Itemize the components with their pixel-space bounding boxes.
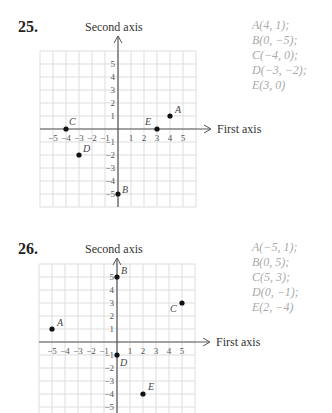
point-label: E (147, 381, 154, 392)
point-c (63, 126, 68, 131)
y-tick-label: 4 (110, 285, 115, 295)
point-b (114, 274, 119, 279)
y-tick-label: −3 (104, 376, 114, 386)
point-label: C (69, 116, 76, 127)
y-tick-label: 5 (111, 59, 116, 69)
point-label: A (56, 317, 64, 328)
point-b (115, 191, 120, 196)
x-tick-label: 1 (128, 346, 133, 356)
x-tick-label: 2 (142, 133, 147, 143)
x-tick-label: 5 (181, 133, 186, 143)
x-tick-label: −4 (61, 133, 71, 143)
y-tick-label: −2 (104, 363, 114, 373)
x-axis-title: First axis (217, 122, 261, 137)
answer-item: D(0, −1); (252, 285, 299, 300)
y-tick-label: −3 (105, 163, 115, 173)
point-label: A (174, 104, 182, 115)
answer-item: C(5, 3); (252, 270, 299, 285)
x-tick-label: −5 (48, 133, 58, 143)
answer-item: D(−3, −2); (252, 63, 307, 78)
y-tick-label: −5 (105, 189, 115, 199)
y-tick-label: 2 (111, 98, 116, 108)
answer-item: A(4, 1); (252, 18, 307, 33)
y-tick-label: 4 (111, 72, 116, 82)
x-tick-label: −2 (87, 133, 97, 143)
x-tick-label: 4 (167, 346, 172, 356)
answer-item: E(3, 0) (252, 78, 307, 93)
point-label: D (119, 357, 128, 368)
y-tick-label: −2 (105, 150, 115, 160)
point-label: D (82, 143, 91, 154)
x-tick-label: 1 (129, 133, 134, 143)
y-tick-label: 3 (110, 298, 115, 308)
problem-25: 25. Second axis −5−4−3−2−112345−5−4−3−2−… (0, 0, 332, 215)
point-label: E (144, 116, 151, 127)
x-axis-title: First axis (216, 335, 260, 350)
point-label: B (121, 265, 127, 276)
answer-item: B(0, −5); (252, 33, 307, 48)
x-tick-label: 4 (168, 133, 173, 143)
x-tick-label: −5 (47, 346, 57, 356)
y-tick-label: −1 (105, 137, 115, 147)
x-tick-label: 3 (154, 346, 159, 356)
y-tick-label: 3 (111, 85, 116, 95)
y-tick-label: −1 (104, 350, 114, 360)
answer-item: A(−5, 1); (252, 240, 299, 255)
answer-item: B(0, 5); (252, 255, 299, 270)
y-tick-label: 1 (111, 111, 116, 121)
y-tick-label: 2 (110, 311, 115, 321)
point-e (140, 391, 145, 396)
y-tick-label: −5 (104, 402, 114, 412)
point-d (76, 152, 81, 157)
x-tick-label: 2 (141, 346, 146, 356)
y-tick-label: −4 (104, 389, 114, 399)
y-tick-label: −4 (105, 176, 115, 186)
problem-26: 26. Second axis −5−4−3−2−112345−5−4−3−2−… (0, 213, 332, 413)
point-a (49, 326, 54, 331)
x-tick-label: 5 (180, 346, 185, 356)
answer-list: A(4, 1); B(0, −5); C(−4, 0); D(−3, −2); … (252, 18, 307, 93)
point-d (114, 352, 119, 357)
y-tick-label: 1 (110, 324, 115, 334)
answer-item: C(−4, 0); (252, 48, 307, 63)
x-tick-label: −3 (73, 346, 83, 356)
x-tick-label: 3 (155, 133, 160, 143)
point-label: C (170, 303, 177, 314)
x-tick-label: −3 (74, 133, 84, 143)
point-c (179, 300, 184, 305)
answer-list: A(−5, 1); B(0, 5); C(5, 3); D(0, −1); E(… (252, 240, 299, 315)
answer-item: E(2, −4) (252, 300, 299, 315)
point-e (154, 126, 159, 131)
y-tick-label: 5 (110, 272, 115, 282)
x-tick-label: −4 (60, 346, 70, 356)
x-tick-label: −2 (86, 346, 96, 356)
point-label: B (122, 184, 128, 195)
point-a (167, 113, 172, 118)
